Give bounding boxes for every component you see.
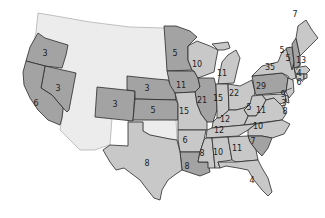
label-va: 11 bbox=[256, 106, 266, 115]
label-md: 8 bbox=[282, 107, 287, 116]
label-nc: 10 bbox=[253, 122, 263, 131]
label-wi: 10 bbox=[192, 60, 202, 69]
label-ne: 3 bbox=[144, 84, 149, 93]
label-nh: 5 bbox=[279, 46, 284, 55]
label-ct: 6 bbox=[296, 78, 301, 87]
label-la: 8 bbox=[184, 162, 189, 171]
label-ks: 5 bbox=[150, 106, 155, 115]
label-tn: 12 bbox=[214, 126, 224, 135]
label-tx: 8 bbox=[144, 159, 149, 168]
label-ny: 35 bbox=[265, 63, 275, 72]
label-pa: 29 bbox=[256, 82, 266, 91]
label-ar: 6 bbox=[182, 136, 187, 145]
us-electoral-map: 3 3 6 3 3 5 5 11 10 11 21 15 22 29 35 7 … bbox=[0, 0, 325, 218]
label-nv: 3 bbox=[55, 84, 60, 93]
label-mo: 15 bbox=[179, 107, 189, 116]
state-new-jersey bbox=[286, 78, 294, 98]
label-in: 15 bbox=[213, 94, 223, 103]
label-vt: 5 bbox=[285, 54, 290, 63]
label-or: 3 bbox=[42, 49, 47, 58]
label-al: 10 bbox=[213, 148, 223, 157]
label-ga: 11 bbox=[232, 144, 242, 153]
label-fl: 4 bbox=[249, 176, 254, 185]
state-maine bbox=[296, 20, 318, 56]
label-ia: 11 bbox=[176, 81, 186, 90]
label-ca: 6 bbox=[33, 99, 38, 108]
label-ri: 4 bbox=[296, 69, 301, 78]
state-michigan bbox=[212, 42, 240, 84]
label-mi: 11 bbox=[217, 69, 227, 78]
label-ms: 8 bbox=[199, 149, 204, 158]
label-me: 7 bbox=[292, 10, 297, 19]
state-rhode-island bbox=[304, 74, 307, 79]
label-mn: 5 bbox=[172, 49, 177, 58]
label-co: 3 bbox=[112, 100, 117, 109]
label-oh: 22 bbox=[229, 89, 239, 98]
label-sc: 7 bbox=[250, 137, 255, 146]
label-il: 21 bbox=[197, 96, 207, 105]
state-florida bbox=[218, 160, 272, 196]
label-ky: 12 bbox=[220, 115, 230, 124]
label-wv: 5 bbox=[246, 103, 251, 112]
